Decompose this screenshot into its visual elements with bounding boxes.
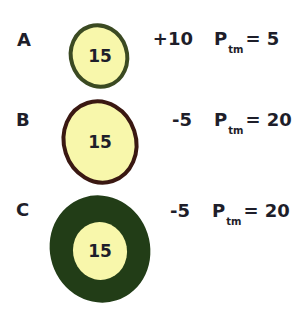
- ptm-a-value: = 5: [245, 28, 279, 49]
- delta-b: -5: [132, 111, 192, 129]
- ptm-c-subscript: tm: [226, 216, 241, 227]
- delta-a: +10: [133, 30, 193, 48]
- ptm-b-value: = 20: [245, 109, 291, 130]
- ellipse-b: 15: [53, 92, 147, 192]
- ptm-a: Ptm= 5: [214, 30, 279, 48]
- ellipse-b-value: 15: [88, 132, 112, 152]
- ellipse-a: 15: [63, 18, 135, 94]
- row-label-b: B: [16, 111, 30, 129]
- ptm-c-symbol: P: [212, 200, 225, 221]
- ptm-c-value: = 20: [243, 200, 289, 221]
- ptm-a-subscript: tm: [228, 44, 243, 55]
- delta-c: -5: [130, 202, 190, 220]
- ellipse-c-value: 15: [88, 241, 112, 261]
- ptm-b: Ptm= 20: [214, 111, 292, 129]
- row-label-a: A: [17, 31, 31, 49]
- ptm-c: Ptm= 20: [212, 202, 290, 220]
- ptm-b-subscript: tm: [228, 125, 243, 136]
- cell-diagram: 15 15 15: [0, 0, 303, 327]
- ptm-a-symbol: P: [214, 28, 227, 49]
- ptm-b-symbol: P: [214, 109, 227, 130]
- ellipse-a-value: 15: [88, 46, 112, 66]
- row-label-c: C: [16, 201, 29, 219]
